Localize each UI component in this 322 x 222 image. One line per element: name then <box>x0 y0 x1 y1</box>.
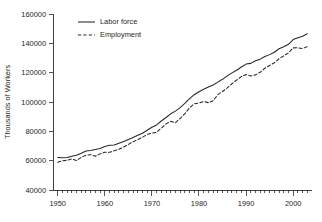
chart-legend: Labor forceEmployment <box>78 17 141 39</box>
x-axis-group: 195019601970198019902000 <box>49 190 312 208</box>
series-line-employment <box>58 47 308 163</box>
y-axis-title: Thousands of Workers <box>3 65 12 140</box>
x-tick-label: 1980 <box>191 199 207 208</box>
x-tick-label: 1950 <box>49 199 65 208</box>
chart-container: 400006000080000100000120000140000160000 … <box>0 0 322 222</box>
x-tick-label: 1960 <box>97 199 113 208</box>
y-tick-label: 160000 <box>21 10 46 19</box>
x-axis-ticks: 195019601970198019902000 <box>49 190 307 208</box>
line-chart: 400006000080000100000120000140000160000 … <box>0 0 322 222</box>
y-axis-ticks: 400006000080000100000120000140000160000 <box>21 10 53 195</box>
y-axis-group: 400006000080000100000120000140000160000 <box>21 10 53 195</box>
y-tick-label: 40000 <box>25 186 46 195</box>
legend-label-employment: Employment <box>100 30 141 39</box>
y-tick-label: 100000 <box>21 98 46 107</box>
x-tick-label: 1970 <box>144 199 160 208</box>
legend-label-labor-force: Labor force <box>100 17 137 26</box>
y-tick-label: 80000 <box>25 127 46 136</box>
y-tick-label: 60000 <box>25 156 46 165</box>
y-tick-label: 140000 <box>21 39 46 48</box>
series-group <box>58 34 308 162</box>
x-tick-label: 1990 <box>238 199 254 208</box>
series-line-labor-force <box>58 34 308 158</box>
y-tick-label: 120000 <box>21 68 46 77</box>
x-tick-label: 2000 <box>285 199 301 208</box>
